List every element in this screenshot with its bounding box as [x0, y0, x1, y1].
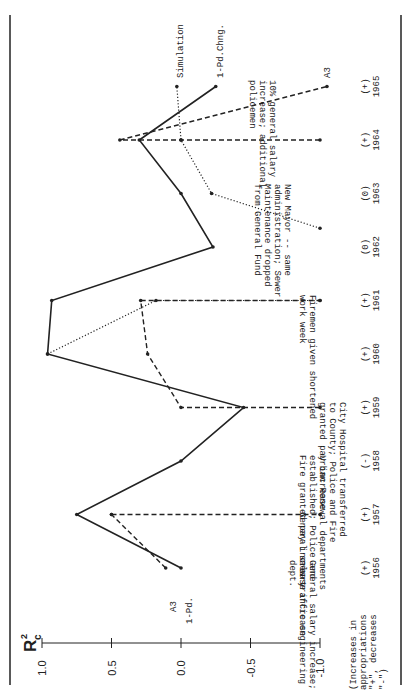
- annotation-line: Maintenance dropped: [262, 184, 272, 287]
- annotation-line: to County; Police and Fire: [327, 402, 337, 542]
- annotation-line: Fire granted pay increase: [297, 455, 307, 590]
- year-label: 1965: [372, 76, 382, 98]
- year-sign: (+): [361, 506, 371, 522]
- annotation-line: from General Fund: [252, 184, 262, 276]
- year-label: 1961: [372, 290, 382, 312]
- annotation-line: increase; additional: [257, 80, 267, 188]
- caption-line: (Increases in: [349, 620, 359, 690]
- axis-label-sup: 2: [19, 634, 29, 639]
- annotation-line: work week: [297, 295, 307, 344]
- year-sign: (+): [361, 132, 371, 148]
- year-label: 1956: [372, 557, 382, 579]
- year-label: 1958: [372, 450, 382, 472]
- annotation-line: Firemen given shortened: [307, 295, 317, 419]
- annotation-line: established; Police and: [307, 455, 317, 579]
- year-label: 1959: [372, 397, 382, 419]
- year-label: 1964: [372, 129, 382, 151]
- annotations: General salary increase;new traffic engi…: [247, 80, 347, 690]
- year-sign: (+): [361, 78, 371, 94]
- annotation-line: administration; Sewer: [272, 184, 282, 297]
- year-sign: (+): [361, 399, 371, 415]
- annotation-line: dept.: [287, 560, 297, 587]
- caption-line: appropriations: [359, 614, 369, 690]
- year-sign: (0): [361, 239, 371, 255]
- year-sign: (+): [361, 560, 371, 576]
- year-label: 1957: [372, 504, 382, 526]
- series-label: A3: [169, 601, 179, 612]
- year-sign: (+): [361, 346, 371, 362]
- annotation-line: New Mayor -- same: [282, 184, 292, 276]
- series-group: [46, 85, 329, 570]
- caption-line: "-"): [379, 668, 389, 690]
- year-axis: (+)1956(+)1957(-)1958(+)1959(+)1960(+)19…: [361, 76, 382, 579]
- tick-label: 1.0: [36, 660, 48, 675]
- axis-caption: (Increases inappropriations"+", decrease…: [349, 614, 389, 690]
- axis-label-r: R: [21, 640, 40, 652]
- annotation-line: policemen: [247, 80, 257, 129]
- year-sign: (0): [361, 185, 371, 201]
- year-label: 1962: [372, 236, 382, 258]
- chart-canvas: 1.00.50.0-0.5-1.0 R 2 c (+)1956(+)1957(-…: [0, 0, 409, 698]
- tick-label: -0.5: [245, 659, 257, 678]
- year-label: 1963: [372, 183, 382, 205]
- year-sign: (-): [361, 453, 371, 469]
- series-label: 1-Pd.Chng.: [216, 24, 226, 78]
- caption-line: "+", decreases: [369, 614, 379, 690]
- axis-label-sub: c: [32, 634, 43, 640]
- tick-label: 0.0: [175, 660, 187, 675]
- annotation-line: General salary increase;: [307, 560, 317, 690]
- annotation-line: 10% general salary: [267, 80, 277, 178]
- annotation-line: City Hospital transferred: [337, 402, 347, 537]
- year-label: 1960: [372, 343, 382, 365]
- series-label: 1-Pd.: [185, 597, 195, 624]
- tick-label: 0.5: [106, 660, 118, 675]
- value-axis: 1.00.50.0-0.5-1.0 R 2 c: [19, 634, 326, 678]
- annotation-line: granted pay increase: [317, 402, 327, 510]
- series-label: Simulation: [176, 24, 186, 78]
- series-label: A3: [323, 67, 333, 78]
- year-sign: (+): [361, 292, 371, 308]
